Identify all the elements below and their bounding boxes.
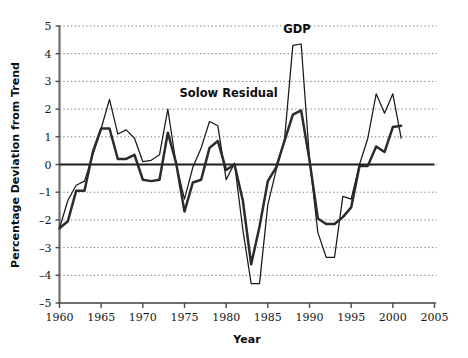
y-axis-title: Percentage Deviation from Trend [9,62,22,268]
x-tick-label: 1975 [171,311,199,324]
y-tick-label: –3 [39,242,52,255]
x-tick-label: 1995 [337,311,365,324]
x-tick-label: 1970 [129,311,157,324]
solow-residual-gdp-line-chart: 1960196519701975198019851990199520002005… [0,0,468,358]
y-tick-label: 0 [45,159,52,172]
x-tick-label: 1990 [296,311,324,324]
y-tick-label: –5 [39,297,52,310]
y-tick-label: –4 [39,269,52,282]
figure-container: 1960196519701975198019851990199520002005… [0,0,468,358]
y-tick-label: 5 [45,20,52,33]
x-tick-label: 2005 [421,311,449,324]
x-tick-label: 1980 [212,311,240,324]
y-tick-label: 1 [45,131,52,144]
x-tick-label: 2000 [379,311,407,324]
y-tick-label: –2 [39,214,52,227]
series-annotation-label: GDP [283,22,310,36]
x-tick-label: 1960 [46,311,74,324]
x-tick-label: 1965 [87,311,115,324]
series-annotation-label: Solow Residual [180,86,278,100]
x-tick-label: 1985 [254,311,282,324]
y-tick-label: 3 [45,75,52,88]
y-tick-label: 4 [45,48,52,61]
y-tick-label: 2 [45,103,52,116]
y-tick-label: –1 [39,186,52,199]
x-axis-title: Year [232,333,261,346]
